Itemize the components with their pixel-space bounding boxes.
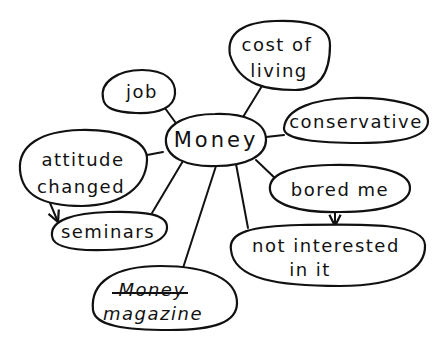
label-job: job xyxy=(125,81,158,102)
node-money-magazine[interactable]: Money magazine xyxy=(93,266,237,330)
label-cost-of-living-line2: living xyxy=(250,60,308,81)
label-conservative: conservative xyxy=(289,111,423,132)
node-job[interactable]: job xyxy=(103,70,175,113)
label-not-interested-line2: in it xyxy=(289,259,331,280)
node-seminars[interactable]: seminars xyxy=(52,212,167,250)
label-attitude-changed-line2: changed xyxy=(37,176,125,197)
label-not-interested-line1: not interested xyxy=(252,235,400,256)
label-money-magazine-line2: magazine xyxy=(103,303,203,324)
link-money-conservative xyxy=(266,135,284,137)
label-cost-of-living-line1: cost of xyxy=(242,34,313,55)
node-attitude-changed[interactable]: attitude changed xyxy=(20,130,147,206)
node-not-interested[interactable]: not interested in it xyxy=(231,224,425,286)
link-money-money-magazine xyxy=(183,166,216,268)
arrow-attitude-to-seminars xyxy=(50,203,58,222)
label-attitude-changed-line1: attitude xyxy=(41,149,124,170)
node-cost-of-living[interactable]: cost of living xyxy=(229,21,330,90)
node-money-central[interactable]: Money xyxy=(166,114,266,166)
link-money-seminars xyxy=(152,161,183,213)
node-conservative[interactable]: conservative xyxy=(284,98,428,143)
label-bored-me: bored me xyxy=(291,179,389,200)
label-money: Money xyxy=(174,128,259,152)
label-seminars: seminars xyxy=(61,221,155,242)
link-money-not-interested xyxy=(236,164,248,228)
link-money-attitude-changed xyxy=(147,152,163,155)
link-money-cost-of-living xyxy=(243,86,262,117)
mind-map: Money job cost of living conservative at… xyxy=(0,0,446,352)
label-money-magazine-line1: Money xyxy=(118,279,185,300)
node-bored-me[interactable]: bored me xyxy=(270,165,410,212)
